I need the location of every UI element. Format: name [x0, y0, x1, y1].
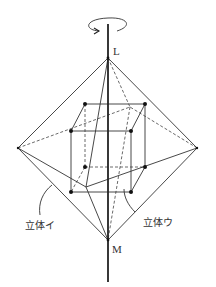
- label-solid-u: 立体ウ: [143, 216, 173, 228]
- label-m: M: [112, 243, 122, 255]
- leader-line-solid-i: [40, 185, 52, 215]
- label-solid-i: 立体イ: [25, 219, 55, 231]
- label-l: L: [113, 45, 120, 57]
- diagram-canvas: L M 立体イ 立体ウ: [0, 0, 216, 287]
